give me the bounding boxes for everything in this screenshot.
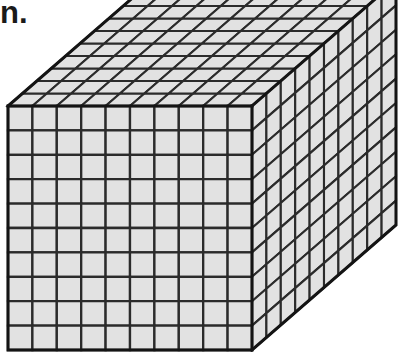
front-face-cell xyxy=(130,106,154,130)
front-face-cell xyxy=(81,106,105,130)
front-face-cell xyxy=(81,228,105,252)
front-face-cell xyxy=(179,179,203,203)
front-face-cell xyxy=(57,228,81,252)
front-face-cell xyxy=(81,130,105,154)
front-face-cell xyxy=(154,252,178,276)
figure-canvas: n. xyxy=(0,0,417,352)
front-face-cell xyxy=(130,301,154,325)
front-face-cell xyxy=(154,204,178,228)
front-face-cell xyxy=(179,252,203,276)
front-face-cell xyxy=(203,326,227,350)
front-face-cell xyxy=(57,204,81,228)
front-face-cell xyxy=(57,106,81,130)
front-face-cell xyxy=(228,130,252,154)
front-face-cell xyxy=(130,204,154,228)
front-face-cell xyxy=(130,277,154,301)
front-face-cell xyxy=(154,106,178,130)
front-face-cell xyxy=(130,228,154,252)
front-face-cell xyxy=(57,130,81,154)
front-face-cell xyxy=(228,228,252,252)
front-face-cell xyxy=(57,326,81,350)
front-face-cell xyxy=(81,179,105,203)
front-face-cell xyxy=(154,326,178,350)
front-face-cell xyxy=(32,179,56,203)
front-face-cell xyxy=(8,252,32,276)
front-face-cell xyxy=(57,277,81,301)
front-face-cell xyxy=(106,130,130,154)
front-face-cell xyxy=(8,228,32,252)
front-face-cell xyxy=(179,106,203,130)
front-face-cell xyxy=(203,155,227,179)
front-face-cell xyxy=(154,179,178,203)
front-face-cell xyxy=(228,277,252,301)
front-face-cell xyxy=(203,277,227,301)
front-face-cell xyxy=(228,204,252,228)
front-face-cell xyxy=(203,179,227,203)
front-face-cell xyxy=(32,301,56,325)
front-face-cell xyxy=(154,228,178,252)
front-face-cell xyxy=(130,252,154,276)
front-face-cell xyxy=(8,301,32,325)
front-face-cell xyxy=(154,155,178,179)
front-face-cell xyxy=(106,326,130,350)
front-face-cell xyxy=(106,106,130,130)
front-face-cell xyxy=(228,326,252,350)
front-face-cell xyxy=(203,130,227,154)
front-face-cell xyxy=(81,301,105,325)
front-face-cell xyxy=(130,179,154,203)
front-face-cell xyxy=(228,179,252,203)
front-face-cell xyxy=(179,326,203,350)
front-face-cell xyxy=(81,326,105,350)
front-face-cell xyxy=(106,277,130,301)
front-face-cell xyxy=(32,277,56,301)
front-face-cell xyxy=(228,155,252,179)
front-face-cell xyxy=(8,106,32,130)
front-face-cell xyxy=(203,228,227,252)
front-face-cell xyxy=(106,179,130,203)
front-face-cell xyxy=(228,252,252,276)
front-face-cell xyxy=(81,204,105,228)
front-face-cell xyxy=(32,130,56,154)
front-face-cell xyxy=(154,130,178,154)
front-face-cell xyxy=(179,277,203,301)
front-face-cell xyxy=(32,326,56,350)
front-face-cell xyxy=(8,155,32,179)
front-face-cell xyxy=(32,155,56,179)
front-face-cell xyxy=(106,155,130,179)
front-face-cell xyxy=(8,277,32,301)
front-face-cell xyxy=(179,204,203,228)
front-face-cell xyxy=(179,130,203,154)
front-face-cell xyxy=(8,204,32,228)
front-face-cell xyxy=(106,301,130,325)
front-face-cell xyxy=(32,252,56,276)
front-face-cell xyxy=(106,252,130,276)
front-face-cell xyxy=(57,252,81,276)
front-face-cell xyxy=(130,326,154,350)
front-face-cell xyxy=(81,252,105,276)
front-face-cell xyxy=(81,155,105,179)
front-face-cell xyxy=(106,204,130,228)
front-face-cell xyxy=(8,326,32,350)
front-face-cell xyxy=(8,179,32,203)
front-face-cell xyxy=(203,106,227,130)
front-face-cell xyxy=(228,301,252,325)
front-face-cell xyxy=(179,228,203,252)
front-face-cell xyxy=(81,277,105,301)
front-face-cell xyxy=(179,155,203,179)
front-face-cell xyxy=(32,228,56,252)
front-face-cell xyxy=(203,252,227,276)
front-face-cell xyxy=(32,204,56,228)
front-face-cell xyxy=(57,155,81,179)
front-face-cell xyxy=(179,301,203,325)
front-face-cell xyxy=(57,301,81,325)
thousand-cube-illustration xyxy=(0,0,417,352)
front-face-cell xyxy=(32,106,56,130)
cube-group xyxy=(8,0,396,350)
front-face-cell xyxy=(130,155,154,179)
front-face-cell xyxy=(130,130,154,154)
front-face-cell xyxy=(154,301,178,325)
front-face-cell xyxy=(203,301,227,325)
front-face-cell xyxy=(228,106,252,130)
front-face-cell xyxy=(57,179,81,203)
front-face-cell xyxy=(203,204,227,228)
